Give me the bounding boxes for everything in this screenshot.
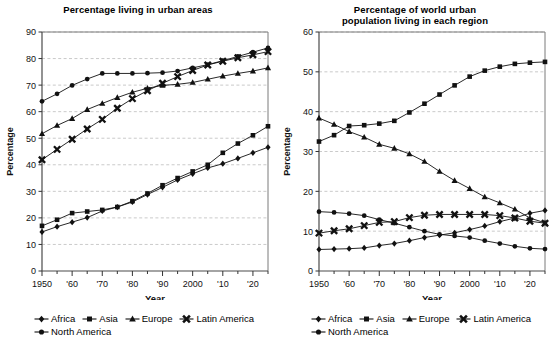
legend-row: AfricaAsiaEuropeLatin America bbox=[34, 312, 261, 325]
plot-area-right: 01020304050601950'60'70'80'902000'10'20P… bbox=[277, 0, 553, 300]
x-tick-label: 1950 bbox=[32, 279, 52, 289]
legend-right: AfricaAsiaEuropeLatin AmericaNorth Ameri… bbox=[311, 312, 538, 338]
legend-item-label: Latin America bbox=[473, 312, 531, 325]
y-tick-label: 80 bbox=[26, 54, 36, 64]
chart-svg: 01020304050607080901950'60'70'80'902000'… bbox=[0, 0, 276, 300]
plot-area-left: 01020304050607080901950'60'70'80'902000'… bbox=[0, 0, 276, 300]
legend-marker-square-icon bbox=[359, 314, 374, 324]
y-tick-label: 10 bbox=[303, 227, 313, 237]
y-tick-label: 50 bbox=[303, 67, 313, 77]
series-europe bbox=[39, 65, 271, 136]
y-tick-label: 10 bbox=[26, 240, 36, 250]
y-tick-label: 90 bbox=[26, 27, 36, 37]
series-europe bbox=[316, 115, 548, 225]
y-tick-label: 30 bbox=[303, 147, 313, 157]
legend-marker-circle-icon bbox=[34, 327, 49, 337]
legend-item-asia[interactable]: Asia bbox=[82, 312, 117, 325]
y-tick-label: 30 bbox=[26, 187, 36, 197]
x-tick-label: '70 bbox=[373, 279, 385, 289]
legend-item-label: Europe bbox=[142, 312, 173, 325]
x-tick-label: '10 bbox=[217, 279, 229, 289]
legend-item-label: Africa bbox=[328, 312, 352, 325]
series-asia bbox=[40, 124, 271, 228]
legend-item-label: Asia bbox=[376, 312, 394, 325]
y-tick-label: 50 bbox=[26, 134, 36, 144]
legend-item-label: Latin America bbox=[196, 312, 254, 325]
x-tick-label: 2000 bbox=[460, 279, 480, 289]
legend-item-label: Europe bbox=[419, 312, 450, 325]
x-tick-label: '20 bbox=[524, 279, 536, 289]
y-axis-title: Percentage bbox=[282, 127, 292, 176]
legend-item-africa[interactable]: Africa bbox=[34, 312, 75, 325]
legend-marker-triangle-icon bbox=[125, 314, 140, 324]
x-tick-label: '90 bbox=[157, 279, 169, 289]
y-tick-label: 20 bbox=[303, 187, 313, 197]
y-tick-label: 40 bbox=[303, 107, 313, 117]
legend-item-latin-america[interactable]: Latin America bbox=[456, 312, 531, 325]
legend-item-north-america[interactable]: North America bbox=[34, 325, 111, 338]
legend-marker-square-icon bbox=[82, 314, 97, 324]
legend-item-europe[interactable]: Europe bbox=[125, 312, 173, 325]
x-axis-title: Year bbox=[422, 293, 442, 300]
y-axis-title: Percentage bbox=[5, 127, 15, 176]
legend-item-north-america[interactable]: North America bbox=[311, 325, 388, 338]
y-tick-label: 40 bbox=[26, 160, 36, 170]
legend-left: AfricaAsiaEuropeLatin AmericaNorth Ameri… bbox=[34, 312, 261, 338]
legend-row: North America bbox=[311, 325, 538, 338]
legend-item-europe[interactable]: Europe bbox=[402, 312, 450, 325]
legend-marker-diamond-icon bbox=[34, 314, 49, 324]
x-tick-label: '80 bbox=[404, 279, 416, 289]
legend-marker-diamond-icon bbox=[311, 314, 326, 324]
x-tick-label: '60 bbox=[66, 279, 78, 289]
x-axis-title: Year bbox=[145, 293, 165, 300]
legend-row: North America bbox=[34, 325, 261, 338]
x-tick-label: '80 bbox=[127, 279, 139, 289]
y-tick-label: 60 bbox=[303, 27, 313, 37]
chart-svg: 01020304050601950'60'70'80'902000'10'20P… bbox=[277, 0, 553, 300]
x-tick-label: '60 bbox=[343, 279, 355, 289]
legend-marker-x-icon bbox=[456, 314, 471, 324]
x-tick-label: '10 bbox=[494, 279, 506, 289]
legend-row: AfricaAsiaEuropeLatin America bbox=[311, 312, 538, 325]
y-tick-label: 70 bbox=[26, 81, 36, 91]
legend-item-label: Asia bbox=[99, 312, 117, 325]
chart-panel-urban-share: Percentage living in urban areas 0102030… bbox=[0, 0, 276, 363]
figure-root: Percentage living in urban areas 0102030… bbox=[0, 0, 553, 363]
chart-panel-world-share: Percentage of world urban population liv… bbox=[277, 0, 553, 363]
x-tick-label: '70 bbox=[96, 279, 108, 289]
legend-marker-circle-icon bbox=[311, 327, 326, 337]
legend-item-label: Africa bbox=[51, 312, 75, 325]
series-asia bbox=[317, 60, 548, 144]
legend-item-label: North America bbox=[328, 325, 388, 338]
legend-item-latin-america[interactable]: Latin America bbox=[179, 312, 254, 325]
legend-item-asia[interactable]: Asia bbox=[359, 312, 394, 325]
y-tick-label: 0 bbox=[308, 266, 313, 276]
y-tick-label: 0 bbox=[31, 266, 36, 276]
x-tick-label: 1950 bbox=[309, 279, 329, 289]
legend-marker-x-icon bbox=[179, 314, 194, 324]
y-tick-label: 20 bbox=[26, 213, 36, 223]
x-tick-label: '20 bbox=[247, 279, 259, 289]
y-tick-label: 60 bbox=[26, 107, 36, 117]
x-tick-label: 2000 bbox=[183, 279, 203, 289]
legend-marker-triangle-icon bbox=[402, 314, 417, 324]
legend-item-africa[interactable]: Africa bbox=[311, 312, 352, 325]
x-tick-label: '90 bbox=[434, 279, 446, 289]
legend-item-label: North America bbox=[51, 325, 111, 338]
